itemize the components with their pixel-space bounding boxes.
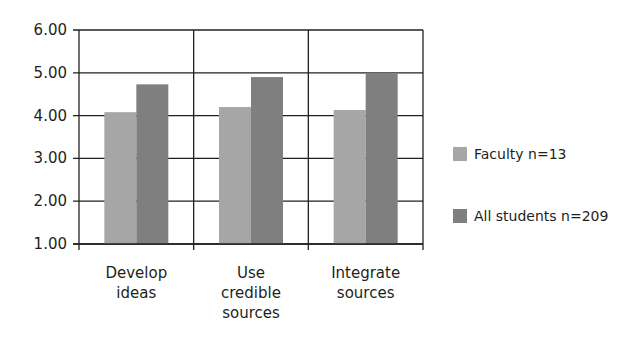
bar-all-students: [366, 73, 398, 244]
legend-label-all-students: All students n=209: [474, 208, 608, 224]
bar-faculty: [334, 110, 366, 244]
y-tick-label: 4.00: [34, 107, 67, 125]
x-tick-label-line: ideas: [81, 283, 191, 303]
x-tick-label: Integratesources: [311, 263, 421, 303]
x-tick-label-line: Develop: [81, 263, 191, 283]
y-tick-label: 3.00: [34, 149, 67, 167]
legend-item-all-students: All students n=209: [453, 208, 608, 224]
legend-item-faculty: Faculty n=13: [453, 146, 566, 162]
bar-all-students: [136, 84, 168, 244]
y-tick-label: 5.00: [34, 64, 67, 82]
y-axis-ticks: 1.002.003.004.005.006.00: [34, 21, 67, 253]
bar-faculty: [104, 112, 136, 244]
x-tick-label-line: credible: [196, 283, 306, 303]
x-tick-label-line: Integrate: [311, 263, 421, 283]
x-tick-label-line: sources: [311, 283, 421, 303]
legend-swatch-all-students: [453, 209, 467, 223]
legend-label-faculty: Faculty n=13: [474, 146, 566, 162]
bars: [104, 73, 397, 244]
x-tick-label: Developideas: [81, 263, 191, 303]
bar-faculty: [219, 107, 251, 244]
x-tick-label: Usecrediblesources: [196, 263, 306, 323]
x-tick-label-line: Use: [196, 263, 306, 283]
y-tick-label: 6.00: [34, 21, 67, 39]
y-tick-label: 2.00: [34, 192, 67, 210]
y-tick-label: 1.00: [34, 235, 67, 253]
bar-all-students: [251, 77, 283, 244]
legend-swatch-faculty: [453, 147, 467, 161]
x-tick-label-line: sources: [196, 303, 306, 323]
